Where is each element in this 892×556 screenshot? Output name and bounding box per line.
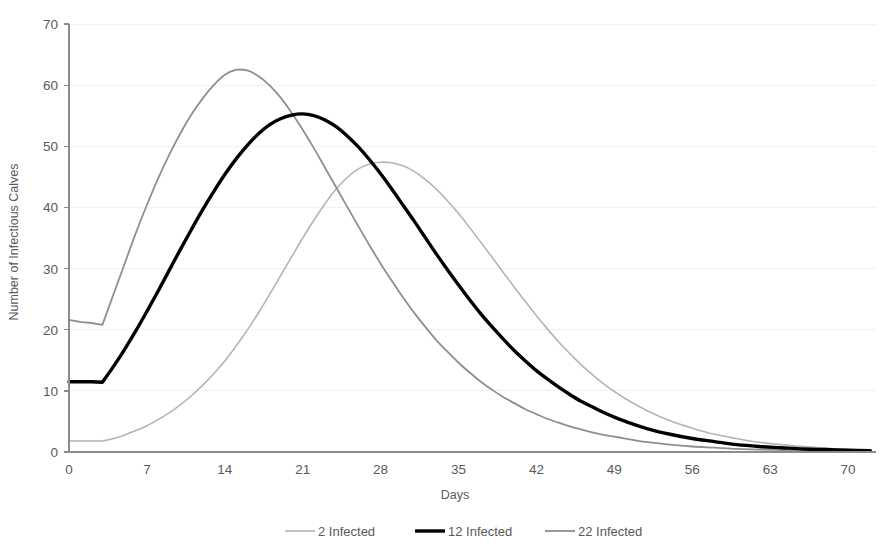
y-tick-label-60: 60 xyxy=(43,78,58,93)
x-tick-label-7: 7 xyxy=(143,462,151,477)
legend: 2 Infected12 Infected22 Infected xyxy=(285,524,642,539)
infectious-calves-line-chart: 01020304050607007142128354249566370 Days… xyxy=(0,0,892,556)
tick-labels: 01020304050607007142128354249566370 xyxy=(43,17,856,477)
y-tick-label-70: 70 xyxy=(43,17,58,32)
y-tick-label-0: 0 xyxy=(50,445,58,460)
legend-item-22-infected[interactable]: 22 Infected xyxy=(545,524,642,539)
x-tick-label-0: 0 xyxy=(65,462,73,477)
legend-item-2-infected[interactable]: 2 Infected xyxy=(285,524,375,539)
legend-label-1: 2 Infected xyxy=(318,524,375,539)
x-tick-label-21: 21 xyxy=(295,462,310,477)
chart-container: 01020304050607007142128354249566370 Days… xyxy=(0,0,892,556)
series-line-12-infected xyxy=(69,114,870,451)
x-tick-label-49: 49 xyxy=(607,462,622,477)
legend-label-2: 12 Infected xyxy=(448,524,512,539)
plot-area-series xyxy=(69,69,870,451)
x-tick-label-28: 28 xyxy=(373,462,388,477)
legend-label-3: 22 Infected xyxy=(578,524,642,539)
y-tick-label-40: 40 xyxy=(43,200,58,215)
y-tick-label-50: 50 xyxy=(43,139,58,154)
x-tick-label-56: 56 xyxy=(685,462,700,477)
gridlines xyxy=(69,24,876,452)
y-axis-title: Number of Infectious Calves xyxy=(7,163,21,320)
x-tick-label-14: 14 xyxy=(217,462,233,477)
legend-item-12-infected[interactable]: 12 Infected xyxy=(415,524,512,539)
x-tick-label-70: 70 xyxy=(841,462,856,477)
x-tick-label-63: 63 xyxy=(763,462,778,477)
x-tick-label-35: 35 xyxy=(451,462,466,477)
x-tick-label-42: 42 xyxy=(529,462,544,477)
series-line-2-infected xyxy=(69,162,870,450)
y-tick-label-30: 30 xyxy=(43,262,58,277)
y-tick-label-10: 10 xyxy=(43,384,58,399)
x-axis-title: Days xyxy=(441,488,469,502)
y-tick-label-20: 20 xyxy=(43,323,58,338)
series-line-22-infected xyxy=(69,69,870,451)
